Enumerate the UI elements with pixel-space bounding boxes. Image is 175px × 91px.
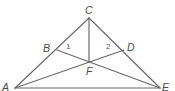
label-a: A [1, 81, 9, 91]
angle-label-1: 1 [66, 42, 71, 51]
segment-ac [15, 18, 89, 88]
triangle-diagram: C B 1 2 D F A E [0, 0, 175, 91]
label-b: B [43, 42, 50, 54]
segment-ce [89, 18, 160, 88]
label-d: D [127, 41, 135, 53]
label-e: E [162, 81, 170, 91]
label-f: F [86, 65, 93, 77]
label-c: C [85, 4, 93, 16]
angle-label-2: 2 [106, 42, 111, 51]
